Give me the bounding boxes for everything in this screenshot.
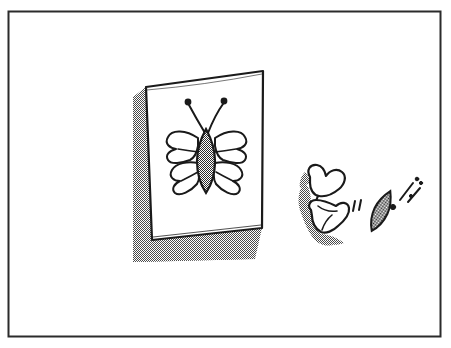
wing-upper-right [215,131,246,163]
antenna-right-tip-dot [221,98,228,105]
illustration-canvas: Butterfly poster with butterfly flying a… [0,0,451,348]
motion-speck-3 [409,194,412,197]
illustration-svg [0,0,451,348]
antenna-left-tip-dot [185,99,192,106]
motion-speck-2 [419,181,422,184]
motion-speck-1 [415,177,419,181]
wing-upper-left [167,131,198,163]
motion-dot [390,204,395,209]
